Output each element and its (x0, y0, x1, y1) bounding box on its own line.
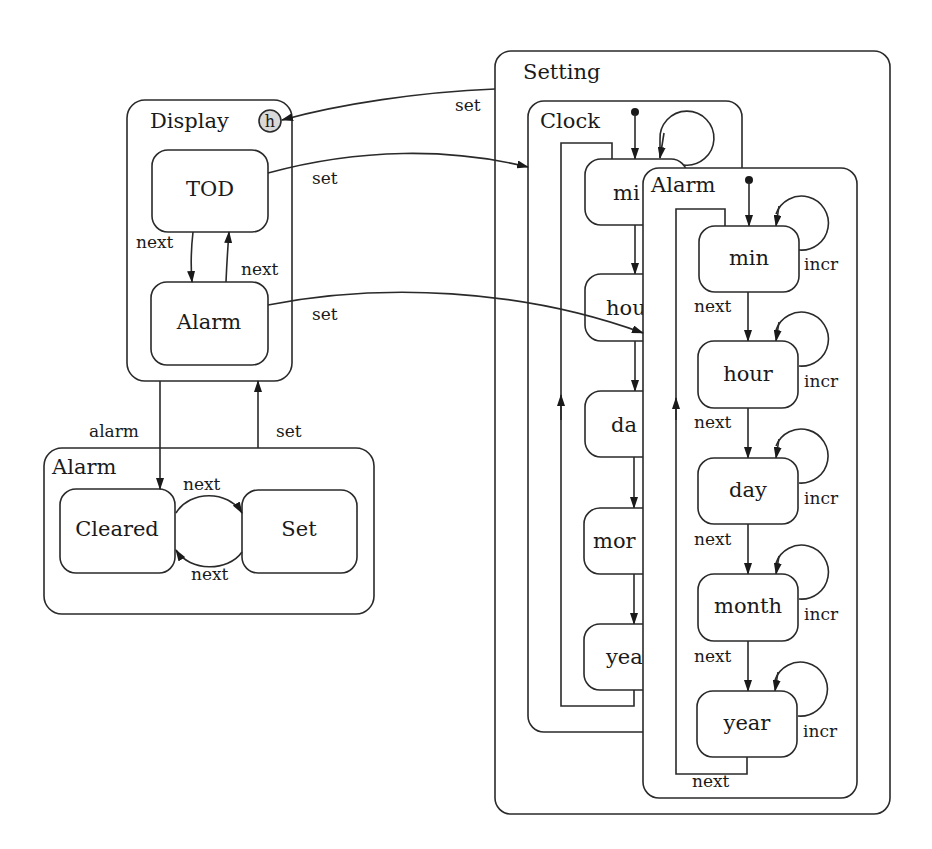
state-alarm-hour[interactable]: hour (698, 341, 798, 408)
tod-to-alarm-label: next (136, 232, 174, 252)
alarm-year-next-label: next (692, 771, 730, 791)
state-alarm-day-label: day (729, 478, 767, 502)
alarm-mode-to-display-label: set (276, 421, 302, 441)
state-cleared-label: Cleared (75, 517, 159, 541)
alarm-mode-label: Alarm (51, 455, 116, 479)
incr-month-label: incr (804, 604, 839, 624)
incr-hour-label: incr (804, 371, 839, 391)
state-clock-day-label: da (611, 413, 637, 437)
alarm-to-tod-label: next (241, 259, 279, 279)
alarm-hour-next-label: next (694, 412, 732, 432)
history-icon: h (259, 110, 281, 132)
alarm-month-next-label: next (694, 646, 732, 666)
incr-year-label: incr (803, 721, 838, 741)
state-cleared[interactable]: Cleared (60, 489, 175, 573)
state-display-alarm-label: Alarm (176, 310, 241, 334)
state-alarm-hour-label: hour (723, 362, 774, 386)
setting-label: Setting (523, 60, 600, 84)
alarm-day-next-label: next (694, 529, 732, 549)
state-clock-month-label: mor (593, 529, 637, 553)
tod-to-clock-label: set (312, 168, 338, 188)
alarm-setting-label: Alarm (650, 173, 715, 197)
state-clock-hour-label: hou (606, 296, 646, 320)
setting-to-display-label: set (455, 95, 481, 115)
state-alarm-year-label: year (723, 711, 772, 735)
state-display-alarm[interactable]: Alarm (151, 282, 268, 365)
state-clock-year-label: yea (605, 645, 643, 669)
cleared-to-set-label: next (183, 474, 221, 494)
display-to-alarm-mode-label: alarm (89, 421, 139, 441)
set-to-cleared-label: next (191, 564, 229, 584)
state-alarm-day[interactable]: day (698, 458, 798, 524)
statechart-diagram: Display h TOD Alarm next next Alarm Clea… (0, 0, 932, 849)
state-clock-min-label: mi (613, 181, 640, 205)
alarm-to-alarm-setting-label: set (312, 304, 338, 324)
clock-label: Clock (540, 109, 600, 133)
state-alarm-month-label: month (714, 594, 782, 618)
state-alarm-month[interactable]: month (698, 574, 798, 641)
state-tod[interactable]: TOD (152, 150, 268, 232)
state-tod-label: TOD (186, 177, 234, 201)
tod-to-clock-edge (268, 153, 528, 173)
state-alarm-min-label: min (729, 246, 769, 270)
state-alarm-min[interactable]: min (699, 226, 799, 292)
display-label: Display (150, 109, 229, 133)
incr-day-label: incr (804, 488, 839, 508)
state-set[interactable]: Set (242, 490, 357, 573)
incr-min-label: incr (804, 254, 839, 274)
state-set-label: Set (281, 517, 317, 541)
history-label: h (265, 112, 275, 131)
alarm-min-next-label: next (694, 296, 732, 316)
state-alarm-year[interactable]: year (697, 691, 797, 757)
